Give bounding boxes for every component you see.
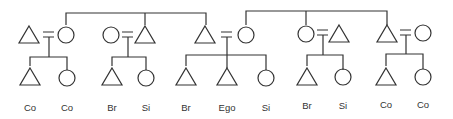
label-sister: Si xyxy=(246,102,286,113)
female-icon xyxy=(415,25,431,41)
family-4 xyxy=(297,25,351,85)
female-icon xyxy=(138,70,154,86)
male-icon xyxy=(20,68,40,85)
female-icon xyxy=(298,26,314,42)
female-icon xyxy=(335,69,351,85)
marriage-icon xyxy=(43,32,54,37)
family-2 xyxy=(102,26,155,86)
family-5 xyxy=(376,25,431,85)
label-cousin: Co xyxy=(47,102,87,113)
male-icon xyxy=(329,25,349,42)
family-1 xyxy=(19,26,75,86)
marriage-icon xyxy=(400,30,411,35)
marriage-icon xyxy=(317,30,328,35)
label-ego: Ego xyxy=(207,102,247,113)
male-icon xyxy=(217,68,237,85)
label-sister: Si xyxy=(126,102,166,113)
male-icon xyxy=(195,26,215,43)
family-ego xyxy=(176,26,274,86)
label-brother: Br xyxy=(166,102,206,113)
male-icon xyxy=(376,68,396,85)
female-icon xyxy=(258,70,274,86)
sibling-line-maternal xyxy=(246,11,387,25)
male-icon xyxy=(297,68,317,85)
male-icon xyxy=(135,26,155,43)
male-icon xyxy=(102,68,122,85)
male-icon xyxy=(19,26,39,43)
marriage-icon xyxy=(122,32,133,37)
female-icon xyxy=(238,27,254,43)
label-cousin: Co xyxy=(403,99,443,110)
male-icon xyxy=(377,25,397,42)
label-sister: Si xyxy=(323,100,363,111)
female-icon xyxy=(59,70,75,86)
label-brother: Br xyxy=(287,100,327,111)
female-icon xyxy=(103,27,119,43)
female-icon xyxy=(415,69,431,85)
female-icon xyxy=(58,27,74,43)
male-icon xyxy=(176,68,196,85)
label-cousin: Co xyxy=(10,102,50,113)
label-cousin: Co xyxy=(366,99,406,110)
marriage-icon xyxy=(221,32,232,37)
sibling-line-paternal xyxy=(66,13,206,25)
